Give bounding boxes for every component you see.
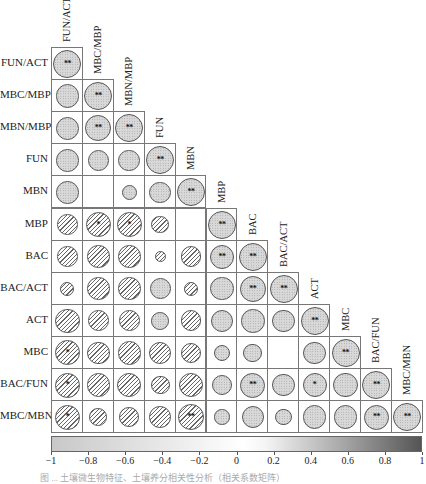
positive-correlation-circle [122,185,137,200]
positive-correlation-circle [56,149,79,172]
significance-marker: * [87,220,110,229]
matrix-cell [113,368,145,401]
matrix-cell [144,272,176,305]
positive-correlation-circle [333,373,357,397]
matrix-cell [175,336,207,369]
row-label: FUN/ACT [0,56,48,68]
row-label: FUN [0,152,48,164]
matrix-cell [82,240,114,273]
matrix-cell: ** [298,304,330,337]
significance-marker: * [118,220,141,229]
matrix-cell: ** [391,400,423,433]
positive-correlation-circle: ** [362,371,390,399]
negative-correlation-circle [149,342,172,365]
matrix-cell [298,400,330,433]
significance-marker: ** [241,380,264,389]
matrix-cell [82,272,114,305]
positive-correlation-circle: ** [393,403,421,431]
negative-correlation-circle [118,341,141,364]
matrix-cell [206,368,238,401]
significance-marker: ** [54,59,80,68]
positive-correlation-circle [210,277,233,300]
matrix-cell: ** [236,272,268,305]
significance-marker: ** [86,123,110,132]
row-label: MBC/MBN [0,409,48,421]
positive-correlation-circle: ** [146,146,174,174]
figure-caption: 图 ... 土壤微生物特征、土壤养分相关性分析（相关系数矩阵） [40,471,285,484]
matrix-cell [329,400,361,433]
matrix-cell [51,208,83,241]
negative-correlation-circle: * [55,340,80,365]
significance-marker: ** [85,91,111,100]
negative-correlation-circle [119,407,139,427]
matrix-cell: ** [329,336,361,369]
matrix-cell [144,400,176,433]
negative-correlation-circle [87,373,110,396]
row-label: MBP [0,217,48,229]
positive-correlation-circle [214,345,231,362]
matrix-cell [82,368,114,401]
negative-correlation-circle [118,277,141,300]
significance-marker: * [56,380,79,389]
positive-correlation-circle: ** [301,307,329,335]
colorbar-tick-label: −1 [36,455,66,466]
positive-correlation-circle: ** [85,115,111,141]
matrix-cell: ** [144,143,176,176]
significance-marker: ** [147,155,173,164]
matrix-cell [82,400,114,433]
matrix-cell [144,175,176,208]
positive-correlation-circle [241,309,264,332]
negative-correlation-circle [87,342,110,365]
matrix-cell [113,304,145,337]
column-label: MBN [185,146,196,170]
positive-correlation-circle [56,181,79,204]
row-label: BAC/FUN [0,377,48,389]
positive-correlation-circle [151,312,169,330]
matrix-cell: ** [206,208,238,241]
matrix-cell [236,400,268,433]
matrix-cell [298,336,330,369]
positive-correlation-circle: ** [239,243,267,271]
row-label: MBC/MBP [0,88,48,100]
matrix-cell [51,111,83,144]
column-label: MBC/MBP [92,26,103,74]
column-label: BAC [247,213,258,235]
negative-correlation-circle [181,343,202,364]
column-label: FUN [154,117,165,138]
matrix-cell [206,304,238,337]
matrix-cell [82,175,114,208]
matrix-cell [236,336,268,369]
positive-correlation-circle: ** [240,373,265,398]
negative-correlation-circle [117,373,141,397]
colorbar-tick-label: 0.8 [370,455,400,466]
significance-marker: ** [211,252,233,261]
significance-marker: ** [302,316,328,325]
matrix-cell [144,240,176,273]
matrix-cell [175,368,207,401]
negative-correlation-circle [87,277,110,300]
positive-correlation-circle [272,374,295,397]
matrix-cell: ** [175,400,207,433]
positive-correlation-circle [88,150,109,171]
positive-correlation-circle [56,84,79,107]
colorbar-tick-label: 0.6 [333,455,363,466]
matrix-cell: ** [82,111,114,144]
positive-correlation-circle: ** [210,245,234,269]
matrix-cell [175,240,207,273]
positive-correlation-circle: ** [332,339,360,367]
column-label: BAC/FUN [370,317,381,363]
negative-correlation-circle [87,245,110,268]
significance-marker: ** [333,348,359,357]
negative-correlation-circle [181,246,202,267]
matrix-cell: ** [113,111,145,144]
row-label: MBN [0,184,48,196]
positive-correlation-circle: ** [240,276,266,302]
negative-correlation-circle: * [117,212,142,237]
column-label: MBN/MBP [123,57,134,106]
negative-correlation-circle: * [86,212,111,237]
column-label: ACT [309,278,320,299]
positive-correlation-circle: ** [270,275,298,303]
positive-correlation-circle [303,405,326,428]
negative-correlation-circle: * [55,405,80,430]
matrix-cell [329,368,361,401]
